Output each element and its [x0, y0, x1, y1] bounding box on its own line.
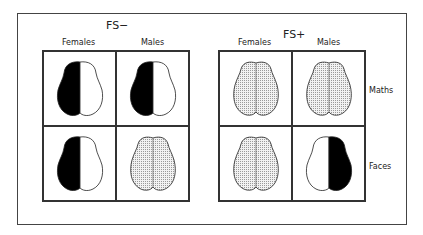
brain-bilateral-stippled-icon	[230, 60, 282, 118]
fs-minus-grid	[42, 50, 190, 202]
cell-fs-minus-maths-males	[116, 51, 189, 126]
brain-bilateral-stippled-icon	[303, 60, 355, 118]
row-label-maths: Maths	[369, 86, 393, 95]
column-label-females: Females	[218, 38, 291, 47]
cell-fs-plus-maths-females	[219, 51, 292, 126]
cell-fs-minus-faces-females	[43, 126, 116, 201]
row-label-faces: Faces	[369, 162, 391, 171]
cell-fs-plus-faces-males	[292, 126, 365, 201]
column-label-males: Males	[116, 38, 189, 47]
brain-left-dark-icon	[54, 60, 106, 118]
cell-fs-minus-faces-males	[116, 126, 189, 201]
brain-right-dark-icon	[303, 135, 355, 193]
brain-left-dark-icon	[54, 135, 106, 193]
brain-bilateral-stippled-icon	[127, 135, 179, 193]
brain-left-dark-icon	[127, 60, 179, 118]
column-label-females: Females	[42, 38, 115, 47]
cell-fs-plus-maths-males	[292, 51, 365, 126]
brain-bilateral-stippled-icon	[230, 135, 282, 193]
cell-fs-minus-maths-females	[43, 51, 116, 126]
fs-plus-grid	[218, 50, 366, 202]
group-title-fs-minus: FS−	[106, 19, 128, 32]
column-label-males: Males	[292, 38, 365, 47]
cell-fs-plus-faces-females	[219, 126, 292, 201]
